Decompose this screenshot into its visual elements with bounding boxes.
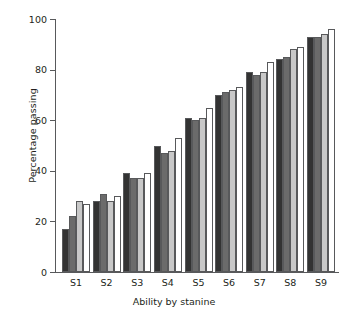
bar-group-s6 bbox=[215, 19, 243, 272]
bar-s2-series-1 bbox=[93, 201, 100, 272]
bar-groups bbox=[56, 19, 339, 272]
y-tick-20: 20 bbox=[50, 221, 55, 222]
bar-s9-series-3 bbox=[321, 34, 328, 272]
x-tick-label-s7: S7 bbox=[246, 276, 274, 292]
x-tick-label-s4: S4 bbox=[154, 276, 182, 292]
bar-s1-series-4 bbox=[83, 204, 90, 272]
bar-s1-series-3 bbox=[76, 201, 83, 272]
bar-s4-series-4 bbox=[175, 138, 182, 272]
y-tick-label-100: 100 bbox=[29, 15, 47, 25]
bar-s4-series-2 bbox=[161, 153, 168, 272]
bar-s3-series-2 bbox=[130, 178, 137, 272]
bar-s3-series-4 bbox=[144, 173, 151, 272]
bar-s5-series-3 bbox=[199, 118, 206, 272]
bar-s5-series-1 bbox=[185, 118, 192, 272]
bar-s3-series-1 bbox=[123, 173, 130, 272]
bar-s8-series-3 bbox=[290, 49, 297, 272]
x-tick-labels: S1S2S3S4S5S6S7S8S9 bbox=[56, 276, 339, 292]
y-axis-title: Percentage passing bbox=[27, 56, 38, 216]
bar-s7-series-3 bbox=[260, 72, 267, 272]
x-tick-label-s3: S3 bbox=[123, 276, 151, 292]
bar-s7-series-1 bbox=[246, 72, 253, 272]
bar-s9-series-2 bbox=[314, 37, 321, 272]
bar-group-s9 bbox=[307, 19, 335, 272]
bar-s6-series-4 bbox=[236, 87, 243, 272]
bar-group-s1 bbox=[62, 19, 90, 272]
bar-chart-figure: Percentage passing 100 80 60 40 20 0 S1S… bbox=[0, 0, 348, 330]
y-tick-label-80: 80 bbox=[35, 65, 47, 75]
bar-group-s8 bbox=[276, 19, 304, 272]
x-axis-title: Ability by stanine bbox=[0, 296, 348, 307]
bar-s5-series-4 bbox=[206, 108, 213, 272]
y-tick-100: 100 bbox=[50, 19, 55, 20]
plot-area: 100 80 60 40 20 0 bbox=[55, 19, 339, 272]
y-tick-40: 40 bbox=[50, 171, 55, 172]
x-tick-label-s6: S6 bbox=[215, 276, 243, 292]
bar-s2-series-4 bbox=[114, 196, 121, 272]
bar-s2-series-3 bbox=[107, 201, 114, 272]
x-tick-label-s8: S8 bbox=[276, 276, 304, 292]
bar-s9-series-4 bbox=[328, 29, 335, 272]
bar-group-s7 bbox=[246, 19, 274, 272]
bar-s8-series-2 bbox=[283, 57, 290, 272]
y-tick-label-20: 20 bbox=[35, 217, 47, 227]
y-tick-label-40: 40 bbox=[35, 167, 47, 177]
y-tick-label-0: 0 bbox=[41, 268, 47, 278]
x-tick-label-s9: S9 bbox=[307, 276, 335, 292]
x-tick-label-s5: S5 bbox=[185, 276, 213, 292]
bar-s4-series-1 bbox=[154, 146, 161, 273]
x-axis-line bbox=[55, 272, 339, 273]
bar-s8-series-4 bbox=[297, 47, 304, 272]
y-tick-80: 80 bbox=[50, 70, 55, 71]
bar-group-s4 bbox=[154, 19, 182, 272]
bar-s4-series-3 bbox=[168, 151, 175, 272]
x-tick-label-s1: S1 bbox=[62, 276, 90, 292]
bar-s8-series-1 bbox=[276, 59, 283, 272]
caption-strip bbox=[0, 318, 348, 330]
bar-s7-series-4 bbox=[267, 62, 274, 272]
bar-s6-series-2 bbox=[222, 92, 229, 272]
bar-s7-series-2 bbox=[253, 75, 260, 272]
bar-s1-series-2 bbox=[69, 216, 76, 272]
bar-group-s2 bbox=[93, 19, 121, 272]
y-tick-60: 60 bbox=[50, 120, 55, 121]
bar-s5-series-2 bbox=[192, 120, 199, 272]
bar-s9-series-1 bbox=[307, 37, 314, 272]
bar-s3-series-3 bbox=[137, 178, 144, 272]
bar-group-s5 bbox=[185, 19, 213, 272]
bar-s1-series-1 bbox=[62, 229, 69, 272]
x-tick-label-s2: S2 bbox=[93, 276, 121, 292]
bar-group-s3 bbox=[123, 19, 151, 272]
bar-s2-series-2 bbox=[100, 194, 107, 272]
y-tick-label-60: 60 bbox=[35, 116, 47, 126]
bar-s6-series-3 bbox=[229, 90, 236, 272]
bar-s6-series-1 bbox=[215, 95, 222, 272]
